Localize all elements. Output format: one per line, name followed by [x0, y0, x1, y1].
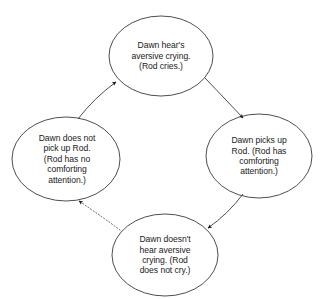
edge-top-to-right [205, 78, 243, 118]
edge-right-to-bottom [208, 194, 243, 228]
node-ellipse-right[interactable] [206, 114, 312, 198]
node-ellipse-left[interactable] [12, 117, 120, 201]
diagram-canvas [0, 0, 320, 299]
edge-bottom-to-left [79, 201, 120, 230]
cycle-diagram: Dawn hear's aversive crying. (Rod cries.… [0, 0, 320, 299]
node-ellipse-top[interactable] [109, 16, 213, 96]
edge-left-to-top [78, 82, 116, 119]
node-ellipse-bottom[interactable] [112, 214, 218, 296]
